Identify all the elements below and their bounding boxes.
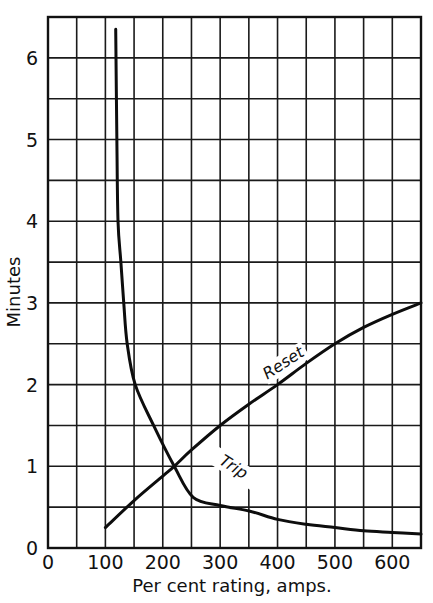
curves bbox=[105, 29, 421, 534]
x-axis-label: Per cent rating, amps. bbox=[132, 575, 331, 596]
y-tick-label: 1 bbox=[26, 455, 38, 477]
reset-series-label: Reset bbox=[259, 342, 308, 383]
y-tick-label: 0 bbox=[26, 537, 38, 559]
trip-reset-chart: TripReset 0100200300400500600 0123456 Pe… bbox=[0, 0, 433, 603]
reset-curve bbox=[105, 303, 421, 528]
x-tick-label: 300 bbox=[202, 551, 238, 573]
trip-curve bbox=[116, 29, 421, 534]
x-tick-label: 400 bbox=[259, 551, 295, 573]
x-tick-label: 200 bbox=[145, 551, 181, 573]
x-tick-label: 500 bbox=[317, 551, 353, 573]
y-tick-labels: 0123456 bbox=[26, 47, 38, 559]
y-axis-label: Minutes bbox=[3, 257, 24, 328]
y-tick-label: 2 bbox=[26, 374, 38, 396]
x-tick-labels: 0100200300400500600 bbox=[42, 551, 410, 573]
y-tick-label: 6 bbox=[26, 47, 38, 69]
y-tick-label: 4 bbox=[26, 210, 38, 232]
y-tick-label: 3 bbox=[26, 292, 38, 314]
y-tick-label: 5 bbox=[26, 129, 38, 151]
x-tick-label: 600 bbox=[374, 551, 410, 573]
x-tick-label: 100 bbox=[87, 551, 123, 573]
x-tick-label: 0 bbox=[42, 551, 54, 573]
series-labels: TripReset bbox=[208, 341, 311, 489]
